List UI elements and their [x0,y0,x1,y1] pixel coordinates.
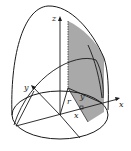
solid-diagram: z y x r y x [0,0,131,151]
radius-label: r [67,97,72,106]
shaded-cross-section [68,21,104,122]
y-axis-label: y [23,83,29,92]
x-axis-label: x [119,100,124,109]
y-axis [32,86,60,115]
base-line-left [16,91,34,126]
y-coord-label: y [79,92,85,101]
z-axis-arrow-icon [58,16,62,21]
x-coord-label: x [74,111,79,120]
z-axis-label: z [51,14,57,23]
